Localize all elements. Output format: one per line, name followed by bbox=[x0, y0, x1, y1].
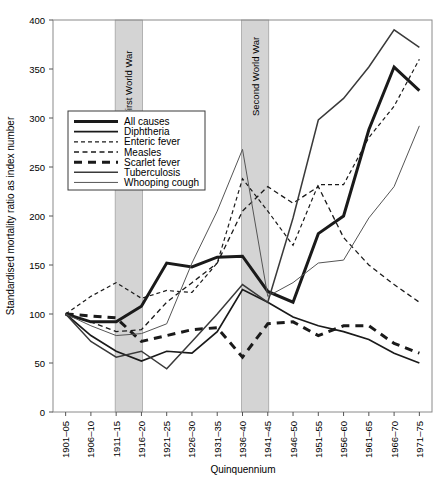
x-tick-label: 1906–10 bbox=[85, 421, 96, 458]
mortality-line-chart: 050100150200250300350400 1901–051906–101… bbox=[0, 0, 448, 486]
x-tick-label: 1931–35 bbox=[212, 421, 223, 458]
x-tick-label: 1956–60 bbox=[338, 421, 349, 458]
legend-label: Whooping cough bbox=[124, 177, 199, 188]
y-tick-label: 200 bbox=[29, 211, 45, 222]
war-band-label: First World War bbox=[123, 51, 134, 116]
y-tick-label: 300 bbox=[29, 113, 45, 124]
band-labels: First World WarSecond World War bbox=[123, 37, 260, 116]
x-tick-label: 1961–65 bbox=[363, 421, 374, 458]
y-tick-label: 250 bbox=[29, 162, 45, 173]
war-band-label-group-1: First World War bbox=[123, 51, 134, 116]
x-tick-label: 1921–25 bbox=[161, 421, 172, 458]
x-tick-label: 1911–15 bbox=[111, 421, 122, 457]
y-tick-label: 100 bbox=[29, 309, 45, 320]
x-axis: 1901–051906–101911–151916–201921–251926–… bbox=[60, 412, 425, 458]
x-tick-label: 1951–55 bbox=[313, 421, 324, 458]
y-tick-label: 50 bbox=[34, 358, 45, 369]
war-band-label: Second World War bbox=[250, 37, 261, 116]
x-tick-label: 1936–40 bbox=[237, 421, 248, 458]
y-tick-label: 0 bbox=[40, 407, 45, 418]
x-tick-label: 1946–50 bbox=[288, 421, 299, 458]
war-band-label-group-2: Second World War bbox=[250, 37, 261, 116]
y-tick-label: 150 bbox=[29, 260, 45, 271]
x-tick-label: 1941–45 bbox=[262, 421, 273, 458]
y-tick-label: 400 bbox=[29, 15, 45, 26]
x-tick-label: 1966–70 bbox=[389, 421, 400, 458]
y-axis: 050100150200250300350400 bbox=[29, 15, 53, 418]
legend-box: All causesDiphtheriaEnteric feverMeasles… bbox=[68, 111, 205, 190]
y-axis-title: Standardised mortality ratio as index nu… bbox=[5, 116, 16, 315]
x-tick-label: 1916–20 bbox=[136, 421, 147, 458]
y-tick-label: 350 bbox=[29, 64, 45, 75]
x-tick-label: 1971–75 bbox=[414, 421, 425, 458]
chart-container: 050100150200250300350400 1901–051906–101… bbox=[0, 0, 448, 486]
x-axis-title: Quinquennium bbox=[210, 464, 275, 475]
x-tick-label: 1901–05 bbox=[60, 421, 71, 458]
x-tick-label: 1926–30 bbox=[186, 421, 197, 458]
